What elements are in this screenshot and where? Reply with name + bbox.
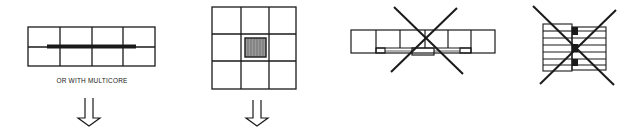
diagram-canvas bbox=[0, 0, 644, 133]
figure-panel-row-strip bbox=[28, 27, 155, 66]
down-arrow-icon bbox=[246, 100, 268, 126]
black-block bbox=[572, 27, 578, 35]
down-arrow-icon bbox=[78, 98, 100, 126]
thick-bar bbox=[47, 45, 136, 49]
figure-panel-strip-with-tabs bbox=[351, 30, 495, 55]
figure-panel-grid-3x3 bbox=[212, 7, 296, 89]
figure-caption: OR WITH MULTICORE bbox=[50, 77, 134, 84]
black-block bbox=[572, 59, 578, 66]
cross-out-icon bbox=[391, 7, 463, 74]
